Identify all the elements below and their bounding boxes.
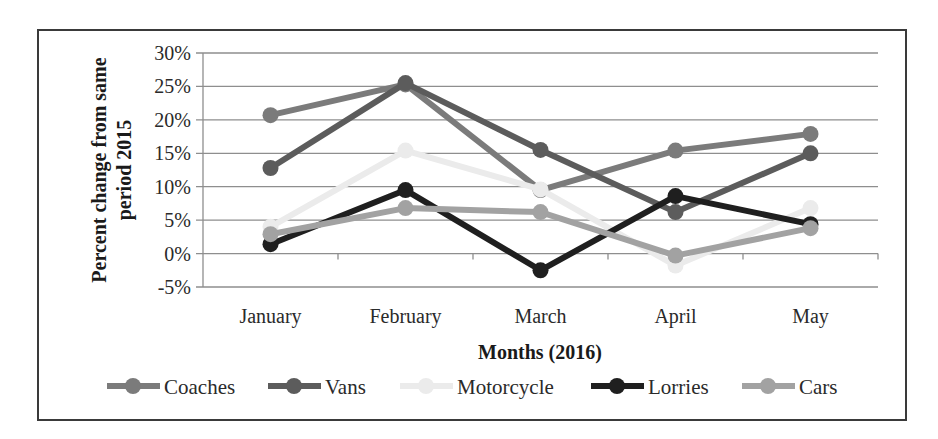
x-tick-label: May — [792, 305, 829, 328]
legend-item-coaches: Coaches — [107, 375, 235, 399]
legend-item-cars: Cars — [742, 375, 838, 399]
y-tick-label: 5% — [164, 209, 191, 231]
data-point-marker — [263, 226, 279, 242]
data-point-marker — [398, 182, 414, 198]
legend-label: Coaches — [164, 375, 235, 399]
data-point-marker — [668, 188, 684, 204]
x-tick-label: January — [239, 305, 301, 328]
data-point-marker — [803, 126, 819, 142]
legend-marker-icon — [286, 378, 302, 394]
y-axis-tick-labels: -5%0%5%10%15%20%25%30% — [154, 42, 191, 298]
legend-item-motorcycle: Motorcycle — [400, 375, 554, 399]
legend: CoachesVansMotorcycleLorriesCars — [107, 375, 838, 399]
legend-item-lorries: Lorries — [591, 375, 709, 399]
data-point-marker — [533, 262, 549, 278]
data-point-marker — [668, 204, 684, 220]
series-coaches — [263, 76, 819, 198]
data-point-marker — [533, 204, 549, 220]
line-chart: -5%0%5%10%15%20%25%30% JanuaryFebruaryMa… — [0, 0, 938, 439]
data-point-marker — [668, 143, 684, 159]
y-tick-label: -5% — [158, 276, 191, 298]
y-tick-label: 30% — [154, 42, 191, 64]
data-point-marker — [803, 220, 819, 236]
data-point-marker — [668, 248, 684, 264]
y-tick-label: 0% — [164, 243, 191, 265]
data-point-marker — [803, 145, 819, 161]
y-axis-title-line-2: period 2015 — [113, 120, 136, 221]
x-tick-label: April — [654, 305, 697, 328]
data-point-marker — [533, 142, 549, 158]
data-point-marker — [398, 200, 414, 216]
legend-label: Lorries — [648, 375, 709, 399]
x-axis-tick-labels: JanuaryFebruaryMarchAprilMay — [239, 305, 828, 328]
legend-item-vans: Vans — [268, 375, 366, 399]
legend-label: Motorcycle — [457, 375, 554, 399]
y-tick-label: 25% — [154, 75, 191, 97]
legend-label: Cars — [799, 375, 838, 399]
x-tick-label: February — [369, 305, 441, 328]
y-tick-label: 20% — [154, 109, 191, 131]
x-axis-title: Months (2016) — [478, 341, 602, 364]
series-line — [271, 190, 811, 270]
y-tick-label: 15% — [154, 142, 191, 164]
data-point-marker — [533, 181, 549, 197]
data-point-marker — [263, 160, 279, 176]
legend-marker-icon — [760, 378, 776, 394]
data-point-marker — [398, 143, 414, 159]
y-axis-title-line-1: Percent change from same — [88, 57, 111, 282]
legend-marker-icon — [609, 378, 625, 394]
data-point-marker — [263, 107, 279, 123]
x-tick-label: March — [514, 305, 566, 327]
series-lines — [263, 75, 819, 278]
legend-label: Vans — [325, 375, 366, 399]
data-point-marker — [398, 75, 414, 91]
legend-marker-icon — [418, 378, 434, 394]
legend-marker-icon — [125, 378, 141, 394]
y-tick-label: 10% — [154, 176, 191, 198]
series-line — [271, 84, 811, 190]
data-point-marker — [803, 200, 819, 216]
